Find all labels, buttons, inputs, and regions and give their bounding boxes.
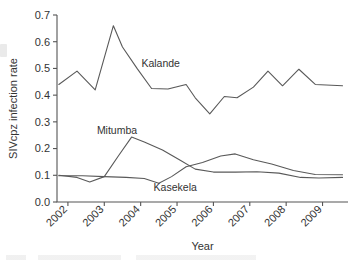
series-line-kasekela [59, 154, 343, 183]
y-tick-label: 0.1 [35, 169, 50, 181]
x-tick-label: 2008 [262, 203, 288, 229]
y-tick-label: 0.2 [35, 142, 50, 154]
x-tick-label: 2003 [80, 203, 106, 229]
x-tick-label: 2009 [298, 203, 324, 229]
x-tick-label: 2007 [225, 203, 251, 229]
x-tick-label: 2004 [116, 203, 142, 229]
y-tick-label: 0.0 [35, 196, 50, 208]
series-line-mitumba [59, 137, 343, 182]
y-tick-label: 0.4 [35, 89, 50, 101]
page-scan-artifact-left [0, 44, 7, 57]
y-axis-title: SIVcpz infection rate [7, 58, 19, 159]
x-axis-title: Year [191, 240, 214, 252]
series-line-kalande [59, 26, 343, 114]
y-tick-label: 0.5 [35, 62, 50, 74]
y-tick-label: 0.6 [35, 36, 50, 48]
chart-axes [57, 15, 348, 202]
series-label-mitumba: Mitumba [97, 124, 137, 136]
figure-container: 0.00.10.20.30.40.50.60.72002200320042005… [0, 0, 360, 263]
series-label-kasekela: Kasekela [154, 181, 197, 193]
y-tick-label: 0.3 [35, 116, 50, 128]
y-tick-label: 0.7 [35, 9, 50, 21]
series-label-kalande: Kalande [141, 57, 180, 69]
x-tick-label: 2005 [153, 203, 179, 229]
line-chart: 0.00.10.20.30.40.50.60.72002200320042005… [0, 0, 360, 263]
page-scan-artifact-bottom [6, 255, 256, 260]
x-tick-label: 2006 [189, 203, 215, 229]
